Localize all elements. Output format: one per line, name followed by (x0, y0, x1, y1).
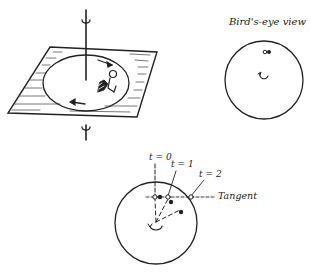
tangent-panel (115, 164, 216, 264)
rotating-platform-panel (8, 10, 157, 140)
diagram-canvas (0, 0, 311, 273)
rotation-arrow-icon (150, 226, 162, 230)
straight-path-t0 (153, 195, 157, 199)
rotation-arrow-icon (260, 73, 268, 79)
label-t2: t = 2 (199, 169, 222, 179)
straight-path-t1 (166, 195, 170, 199)
birds-eye-title: Bird's-eye view (229, 16, 306, 27)
tangent-circle (115, 182, 197, 264)
straight-path-t2 (189, 195, 193, 199)
label-tangent: Tangent (218, 190, 257, 201)
birds-eye-panel (225, 41, 303, 119)
observer-open-dot (263, 50, 267, 54)
seated-person-icon (98, 71, 117, 93)
label-t1: t = 1 (171, 159, 194, 169)
rotating-pos-t1 (169, 200, 173, 204)
object-filled-dot (267, 50, 271, 54)
rotating-pos-t0 (158, 195, 162, 199)
label-t0: t = 0 (149, 152, 172, 162)
platform-plane (8, 47, 157, 117)
t2-leader (191, 180, 204, 196)
rotating-pos-t2 (179, 210, 183, 214)
radius-t0 (155, 199, 156, 222)
